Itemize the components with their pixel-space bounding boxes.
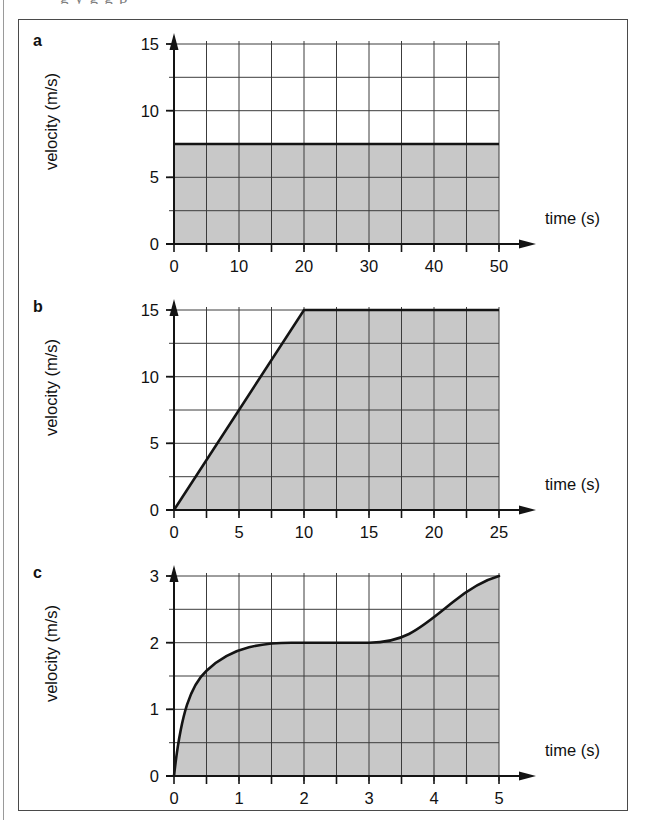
panel-a-x-tick-label-2: 20: [295, 257, 313, 275]
panel-c-y-tick-label-3: 3: [150, 567, 159, 585]
panel-a-x-axis-arrowhead: [519, 240, 536, 249]
panel-c-x-axis-arrowhead: [519, 772, 536, 781]
panel-a-x-tick-label-0: 0: [169, 257, 178, 275]
panel-a-y-tick-label-2: 10: [141, 102, 159, 120]
panel-b: b velocity (m/s) time (s): [19, 286, 629, 550]
panel-b-y-tick-label-3: 15: [141, 301, 159, 319]
panel-b-x-axis-arrowhead: [519, 506, 536, 515]
panel-b-x-tick-label-5: 25: [490, 523, 508, 541]
panel-a-y-tick-label-0: 0: [150, 235, 159, 253]
page-edge-artifact-line: [3, 0, 4, 820]
panel-b-y-tick-label-0: 0: [150, 501, 159, 519]
panel-a: a velocity (m/s) time (s): [19, 20, 629, 284]
panel-b-y-tick-label-1: 5: [150, 434, 159, 452]
panel-c-x-tick-label-0: 0: [169, 789, 178, 807]
panel-c-y-axis-arrowhead: [170, 565, 179, 582]
panel-a-y-tick-label-1: 5: [150, 168, 159, 186]
panel-b-y-axis-arrowhead: [170, 299, 179, 316]
panel-a-x-tick-label-4: 40: [425, 257, 443, 275]
panel-c-x-tick-label-3: 3: [364, 789, 373, 807]
panel-a-y-ticks: [166, 44, 174, 244]
panel-c-plot: 0 1 2 3 0 1 2 3 4 5: [19, 552, 629, 816]
panel-c-y-tick-label-2: 2: [150, 634, 159, 652]
panel-c-x-tick-label-2: 2: [299, 789, 308, 807]
panel-b-x-tick-label-4: 20: [425, 523, 443, 541]
panel-c-x-tick-label-1: 1: [234, 789, 243, 807]
figure-frame: a velocity (m/s) time (s): [18, 19, 628, 811]
panel-a-y-axis-arrowhead: [170, 33, 179, 50]
panel-b-plot: 0 5 10 15 0 5 10 15 20 25: [19, 286, 629, 550]
panel-b-x-tick-label-3: 15: [360, 523, 378, 541]
panel-b-x-tick-label-2: 10: [295, 523, 313, 541]
panel-a-x-ticks: [174, 244, 499, 252]
panel-c-y-tick-label-0: 0: [150, 767, 159, 785]
panel-a-x-tick-label-1: 10: [230, 257, 248, 275]
panel-c-x-tick-label-5: 5: [494, 789, 503, 807]
panel-a-x-tick-label-5: 50: [490, 257, 508, 275]
panel-a-y-tick-label-3: 15: [141, 35, 159, 53]
panel-c-x-ticks: [174, 776, 499, 784]
panel-b-x-ticks: [174, 510, 499, 518]
cut-off-top-text: g y g g p: [0, 0, 649, 4]
panel-c-x-tick-label-4: 4: [429, 789, 438, 807]
panel-a-plot: 0 5 10 15 0 10 20 30 40 50: [19, 20, 629, 284]
panel-c: c velocity (m/s) time (s): [19, 552, 629, 816]
panel-b-x-tick-label-0: 0: [169, 523, 178, 541]
panel-a-x-tick-label-3: 30: [360, 257, 378, 275]
panel-c-y-tick-label-1: 1: [150, 700, 159, 718]
panel-b-x-tick-label-1: 5: [234, 523, 243, 541]
panel-b-y-tick-label-2: 10: [141, 368, 159, 386]
